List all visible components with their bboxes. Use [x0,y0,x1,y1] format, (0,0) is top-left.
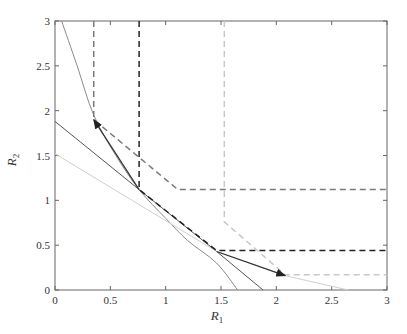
chart: 00.511.522.5300.511.522.53 R1 R2 [0,0,407,334]
x-tick-label: 1 [163,294,169,306]
y-tick-label: 1 [45,194,51,206]
x-tick-label: 3 [384,294,390,306]
y-tick-label: 0.5 [36,239,50,251]
y-tick-label: 1.5 [36,150,50,162]
x-tick-label: 0 [52,294,58,306]
x-tick-label: 0.5 [103,294,117,306]
y-tick-label: 2.5 [36,60,50,72]
x-tick-label: 2.5 [325,294,339,306]
y-tick-label: 0 [45,284,51,296]
y-axis-label: R2 [4,154,21,167]
x-axis-label: R1 [210,308,223,325]
y-tick-label: 3 [45,15,51,27]
plot-area [55,21,387,290]
x-tick-label: 1.5 [214,294,228,306]
x-tick-label: 2 [274,294,280,306]
y-tick-label: 2 [45,105,51,117]
